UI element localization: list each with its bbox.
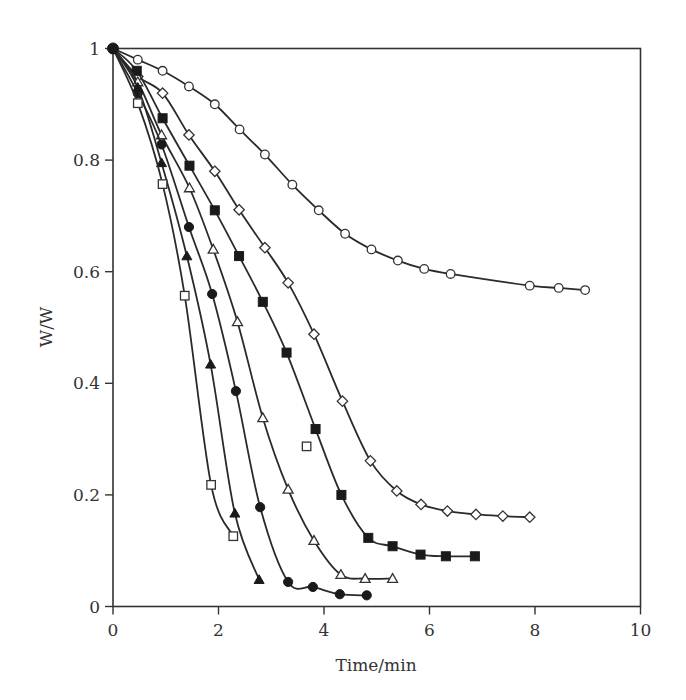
open-circle-marker [261,150,270,159]
open-diamond-marker [260,243,270,253]
filled-circle-marker [308,582,317,591]
filled-circle-marker [231,387,240,396]
open-diamond-marker [365,456,375,466]
open-diamond-marker [442,506,452,516]
open-diamond-marker [471,509,481,519]
open-triangle-marker [184,183,194,192]
filled-circle-marker [157,140,166,149]
isolated-open-square-marker [302,442,311,451]
open-triangle-marker [232,317,242,326]
open-diamond-marker [525,512,535,522]
filled-triangle-marker [230,508,240,517]
open-square-marker [229,532,238,541]
filled-square-marker [441,552,450,561]
x-tick-label: 10 [630,620,652,640]
x-tick-label: 0 [108,620,119,640]
open-triangle-marker [208,244,218,253]
y-tick-label: 0.4 [73,373,100,393]
open-diamond-marker [416,499,426,509]
filled-square-marker [311,425,320,434]
open-diamond-marker [210,166,220,176]
x-tick-label: 4 [319,620,330,640]
open-circle-marker [525,281,534,290]
x-axis-ticks: 0246810 [108,607,652,640]
open-triangle-marker [309,536,319,545]
y-tick-label: 0.8 [73,150,100,170]
open-square-marker [158,180,167,189]
y-axis-title: W/W [36,306,56,347]
open-diamond-marker [337,396,347,406]
y-tick-label: 0.2 [73,485,100,505]
open-square-marker [207,481,216,490]
filled-square-marker [364,533,373,542]
open-diamond-marker [234,205,244,215]
series-layer [108,43,590,600]
open-circle-marker [367,245,376,254]
y-tick-label: 0 [89,597,100,617]
origin-point [108,43,119,54]
filled-circle-marker [362,591,371,600]
series-open-square [113,49,238,541]
x-tick-label: 2 [213,620,224,640]
filled-square-marker [158,114,167,123]
filled-square-line [113,49,475,557]
x-tick-label: 6 [424,620,435,640]
open-circle-line [113,49,585,291]
open-circle-marker [314,206,323,215]
open-square-marker [134,99,143,108]
filled-square-marker [282,348,291,357]
open-circle-marker [185,82,194,91]
filled-circle-marker [184,222,193,231]
open-circle-marker [341,229,350,238]
open-diamond-marker [309,329,319,339]
filled-square-marker [470,552,479,561]
open-triangle-marker [283,484,293,493]
open-circle-marker [288,180,297,189]
open-circle-marker [394,256,403,265]
open-square-marker [180,291,189,300]
filled-square-marker [337,490,346,499]
open-diamond-marker [184,130,194,140]
open-circle-marker [133,55,142,64]
open-circle-marker [420,265,429,274]
weight-loss-chart: 0246810 00.20.40.60.81 Time/min W/W [0,0,686,700]
open-diamond-marker [283,278,293,288]
series-filled-square [113,49,479,561]
y-tick-label: 1 [89,39,100,59]
open-circle-marker [211,100,220,109]
origin-marker [108,43,119,54]
filled-circle-marker [284,577,293,586]
x-axis-title: Time/min [335,655,416,675]
open-circle-marker [235,125,244,134]
filled-square-marker [185,161,194,170]
y-tick-label: 0.6 [73,262,100,282]
isolated-open-square [302,442,311,451]
x-tick-label: 8 [530,620,541,640]
filled-triangle-marker [254,575,264,584]
filled-square-marker [210,206,219,215]
filled-square-marker [416,550,425,559]
open-circle-marker [158,67,167,76]
open-triangle-marker [258,413,268,422]
open-circle-marker [446,270,455,279]
open-circle-marker [554,284,563,293]
filled-circle-marker [208,289,217,298]
filled-triangle-marker [206,359,216,368]
filled-square-marker [258,297,267,306]
filled-triangle-marker [182,251,192,260]
filled-square-marker [388,542,397,551]
y-axis-ticks: 00.20.40.60.81 [73,39,113,617]
open-circle-marker [581,286,590,295]
open-diamond-marker [498,511,508,521]
filled-circle-marker [256,503,265,512]
filled-circle-marker [335,590,344,599]
filled-square-marker [235,252,244,261]
